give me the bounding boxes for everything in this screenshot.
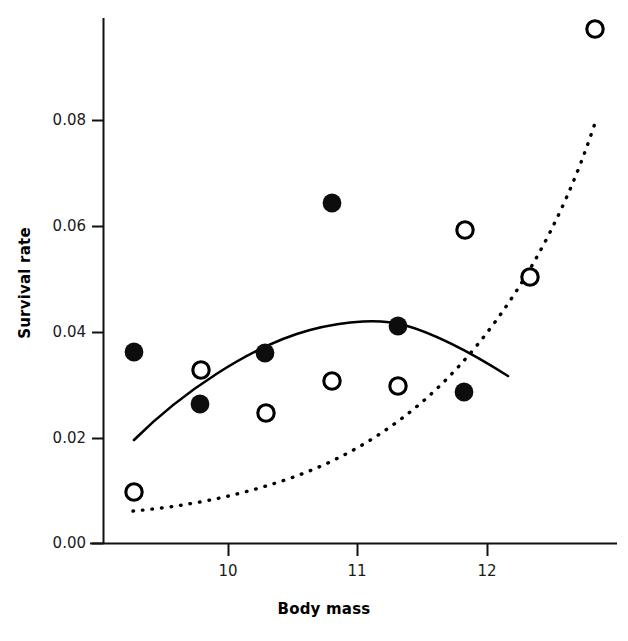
y-tick-label-0-06: 0.06 [30,217,86,235]
x-tick-label-10: 10 [208,562,248,580]
y-axis-ticks [92,121,104,544]
data-point-filled [455,383,474,402]
y-tick-label-0-02: 0.02 [30,429,86,447]
data-point-filled [256,344,275,363]
data-point-open [390,378,406,394]
x-tick-label-11: 11 [337,562,377,580]
data-point-open [193,362,209,378]
data-point-open [587,21,603,37]
data-point-filled [323,194,342,213]
y-tick-label-0-00: 0.00 [30,534,86,552]
data-point-open [324,373,340,389]
data-point-filled [191,395,210,414]
data-point-open [522,269,538,285]
y-tick-label-0-08: 0.08 [30,111,86,129]
data-point-filled [389,317,408,336]
y-axis-title: Survival rate [16,218,34,348]
open-circle-markers [126,21,603,500]
x-axis-ticks [229,544,488,557]
data-point-open [258,405,274,421]
data-point-filled [125,343,144,362]
fit-curves [133,123,595,511]
x-axis-title: Body mass [254,600,394,618]
y-tick-label-0-04: 0.04 [30,323,86,341]
chart-figure: 0.08 0.06 0.04 0.02 0.00 10 11 12 Surviv… [0,0,628,641]
data-point-open [457,222,473,238]
solid-fit-curve [134,321,508,440]
filled-circle-markers [125,194,474,414]
x-tick-label-12: 12 [467,562,507,580]
dotted-fit-curve [133,123,595,511]
data-point-open [126,484,142,500]
plot-canvas [0,0,628,641]
